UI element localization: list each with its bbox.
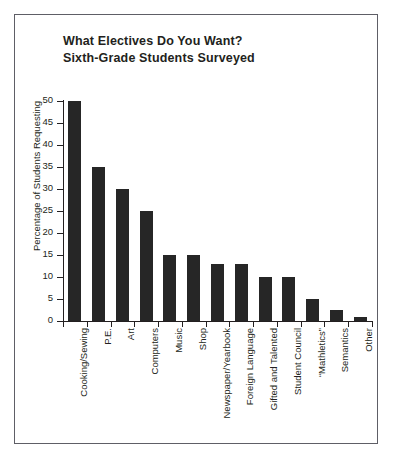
x-axis-tick [253, 321, 254, 327]
y-axis-tick: 5 [57, 299, 63, 300]
x-axis-label: Art [126, 328, 136, 340]
plot-area: 05101520253035404550 [63, 101, 372, 321]
y-axis-title-text: Percentage of Students Requesting [31, 101, 42, 251]
y-axis-tick-label: 40 [42, 138, 53, 149]
y-axis-tick-label: 20 [42, 226, 53, 237]
bar [235, 264, 248, 321]
bar [116, 189, 129, 321]
chart-figure: What Electives Do You Want? Sixth-Grade … [0, 0, 402, 458]
y-axis-tick: 35 [57, 167, 63, 168]
chart-title-block: What Electives Do You Want? Sixth-Grade … [63, 33, 363, 67]
x-axis-tick [229, 321, 230, 327]
y-axis-tick-label: 15 [42, 248, 53, 259]
x-axis-label: Other [364, 328, 374, 352]
x-axis-tick [111, 321, 112, 327]
bar [306, 299, 319, 321]
x-axis-tick [158, 321, 159, 327]
y-axis-tick: 10 [57, 277, 63, 278]
bar [282, 277, 295, 321]
y-axis-tick-label: 45 [42, 116, 53, 127]
y-axis-tick-label: 50 [42, 94, 53, 105]
y-axis-tick: 40 [57, 145, 63, 146]
bar [330, 310, 343, 321]
x-axis-tick [372, 321, 373, 327]
bar [68, 101, 81, 321]
bar [354, 317, 367, 321]
x-axis-label: “Mathletics” [317, 328, 327, 377]
x-axis-label: Gifted and Talented [269, 328, 279, 410]
x-axis-label: Foreign Language [245, 328, 255, 405]
x-axis-tick [206, 321, 207, 327]
chart-subtitle: Sixth-Grade Students Surveyed [63, 50, 363, 67]
x-axis-tick [301, 321, 302, 327]
y-axis-tick: 50 [57, 101, 63, 102]
y-axis-tick-label: 5 [48, 292, 53, 303]
y-axis-tick-label: 0 [48, 314, 53, 325]
y-axis-tick-label: 10 [42, 270, 53, 281]
x-axis-label: Music [174, 328, 184, 353]
x-axis-tick [182, 321, 183, 327]
y-axis-tick: 45 [57, 123, 63, 124]
x-axis-tick [324, 321, 325, 327]
bar [211, 264, 224, 321]
x-axis-tick [277, 321, 278, 327]
y-axis-tick: 15 [57, 255, 63, 256]
bar [259, 277, 272, 321]
x-axis-label: Shop [198, 328, 208, 350]
x-axis-label: Cooking/Sewing [79, 328, 89, 397]
x-axis-tick [87, 321, 88, 327]
y-axis-tick-label: 35 [42, 160, 53, 171]
bar [140, 211, 153, 321]
y-axis-tick: 30 [57, 189, 63, 190]
x-axis-label: Student Council [293, 328, 303, 395]
x-axis-label: P.E. [103, 328, 113, 345]
y-axis-tick: 25 [57, 211, 63, 212]
y-axis-tick-label: 25 [42, 204, 53, 215]
x-axis-tick [348, 321, 349, 327]
x-axis-tick [134, 321, 135, 327]
x-axis-label: Newspaper/Yearbook [222, 328, 232, 419]
bar [187, 255, 200, 321]
x-axis-label: Computers [150, 328, 160, 374]
x-axis-line [63, 321, 372, 322]
x-axis-tick [63, 321, 64, 327]
bar [92, 167, 105, 321]
chart-title: What Electives Do You Want? [63, 33, 363, 50]
x-axis-label: Semantics [340, 328, 350, 372]
y-axis-tick: 20 [57, 233, 63, 234]
bar [163, 255, 176, 321]
y-axis-tick-label: 30 [42, 182, 53, 193]
